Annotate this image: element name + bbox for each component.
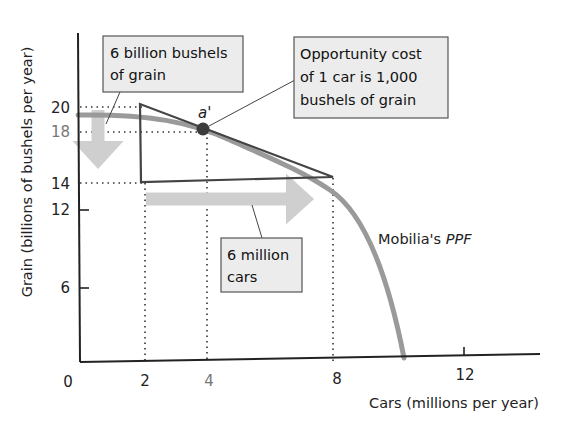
y-tick-label-6: 6 [60,279,70,297]
cars-box-line1: 6 million [227,247,289,263]
cars-annotation-box: 6 million cars [221,238,302,292]
point-a-prime-label: a' [198,104,211,122]
opp-box-line2: of 1 car is 1,000 [300,69,418,85]
x-tick-label-8: 8 [332,370,342,388]
opportunity-cost-annotation-box: Opportunity cost of 1 car is 1,000 bushe… [294,37,448,118]
x-axis [80,354,540,362]
origin-label: 0 [63,373,73,391]
y-axis [78,33,80,362]
point-a-prime [197,123,210,136]
x-tick-label-4: 4 [204,372,214,390]
cars-box-line2: cars [227,269,257,285]
opp-box-line1: Opportunity cost [300,46,422,62]
y-tick-label-12: 12 [51,201,70,219]
y-tick-label-20: 20 [51,99,70,117]
guide-lines [80,107,333,362]
grain-box-leader [106,92,120,124]
x-tick-label-2: 2 [140,372,150,390]
y-axis-title: Grain (billions of bushels per year) [19,47,35,298]
grain-box-line2: of grain [110,67,166,83]
opp-box-line3: bushels of grain [300,92,416,108]
ppf-label-prefix: Mobilia's [378,231,446,247]
y-tick-label-14: 14 [51,175,70,193]
grain-box-line1: 6 billion bushels [110,45,227,61]
y-tick-label-18: 18 [51,123,70,141]
grain-annotation-box: 6 billion bushels of grain [103,36,243,92]
x-tick-label-12: 12 [455,366,474,384]
cars-box-leader [252,205,262,238]
ppf-label-italic: PPF [446,231,472,247]
ppf-curve-label: Mobilia's PPF [378,231,472,247]
ppf-chart: 20 18 14 12 6 0 2 4 8 12 Grain (billions… [0,0,575,433]
x-axis-title: Cars (millions per year) [369,395,539,411]
ppf-curve [78,115,404,358]
